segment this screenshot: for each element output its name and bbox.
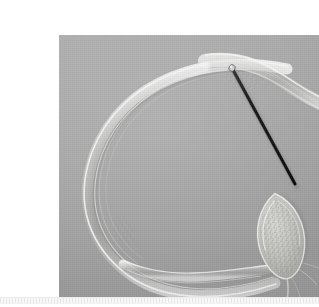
specimen-macro-photograph: Macro photograph of a translucent filame… — [59, 35, 319, 304]
photo-image — [59, 35, 319, 304]
footer-rule-strip — [0, 297, 319, 304]
page-root: Macro photograph of a translucent filame… — [0, 0, 319, 307]
